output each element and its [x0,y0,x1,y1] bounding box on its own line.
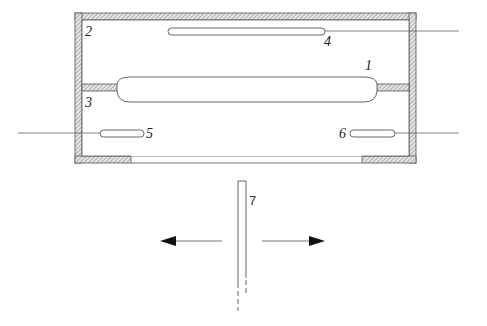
left-wall [75,13,82,163]
label-5: 5 [146,126,153,141]
move-left-arrow [160,236,222,246]
top-wall [75,13,416,20]
move-right-arrow [262,236,325,246]
bottom-right-wall [362,156,416,163]
label-3: 3 [84,95,92,110]
right-tube [350,130,395,137]
sliding-strip [238,181,246,311]
left-tube [100,130,144,137]
upper-tube [168,28,325,35]
label-6: 6 [339,126,346,141]
label-1: 1 [365,58,372,73]
partition-left [82,84,118,91]
bottom-window [131,156,362,163]
label-7: 7 [249,193,256,208]
label-4: 4 [324,34,331,49]
label-2: 2 [85,24,92,39]
diagram-canvas: 1 2 3 4 5 6 7 [0,0,487,326]
partition-right [376,84,409,91]
main-tube [117,77,377,102]
right-wall [409,13,416,163]
bottom-left-wall [75,156,131,163]
